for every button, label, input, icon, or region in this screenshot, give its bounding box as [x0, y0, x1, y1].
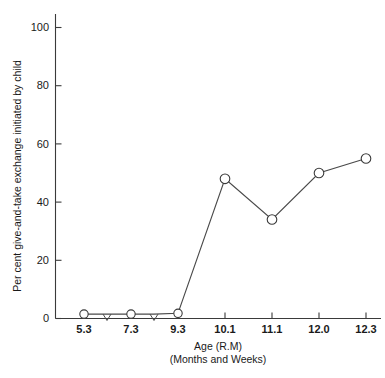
x-axis-title: Age (R.M): [194, 340, 242, 352]
data-point-markers: [80, 154, 371, 319]
y-tick-label-80: 80: [37, 79, 49, 91]
x-axis-tick-labels: 5.3 7.3 9.3 10.1 11.1 12.0 12.3: [76, 323, 376, 335]
x-tick-label-11-1: 11.1: [262, 323, 283, 335]
x-tick-label-12-0: 12.0: [308, 323, 329, 335]
data-point-7-3: [127, 310, 135, 318]
y-tick-label-0: 0: [43, 312, 49, 324]
y-axis-title: Per cent give-and-take exchange initiate…: [11, 60, 23, 292]
data-point-10-1: [220, 174, 230, 184]
data-point-12-3: [361, 154, 371, 164]
line-chart: 0 20 40 60 80 100 5.3 7.3 9.3 10.1 11.1 …: [0, 0, 385, 378]
y-tick-label-40: 40: [37, 196, 49, 208]
x-tick-label-5-3: 5.3: [76, 323, 91, 335]
x-axis-subtitle: (Months and Weeks): [170, 353, 267, 365]
axis-break-mark-2: [150, 314, 158, 320]
y-axis-ticks: [56, 28, 62, 319]
y-tick-label-20: 20: [37, 254, 49, 266]
x-tick-label-10-1: 10.1: [214, 323, 235, 335]
data-point-5-3: [80, 310, 88, 318]
data-point-9-3: [174, 309, 182, 317]
x-tick-label-7-3: 7.3: [123, 323, 138, 335]
axis-break-mark-1: [103, 314, 111, 320]
data-point-11-1: [267, 215, 277, 225]
y-tick-label-100: 100: [31, 21, 49, 33]
x-tick-label-12-3: 12.3: [355, 323, 376, 335]
data-point-12-0: [314, 168, 324, 178]
x-axis-ticks: [84, 313, 366, 319]
y-axis-tick-labels: 0 20 40 60 80 100: [31, 21, 49, 324]
chart-container: 0 20 40 60 80 100 5.3 7.3 9.3 10.1 11.1 …: [0, 0, 385, 378]
y-tick-label-60: 60: [37, 138, 49, 150]
x-tick-label-9-3: 9.3: [170, 323, 185, 335]
